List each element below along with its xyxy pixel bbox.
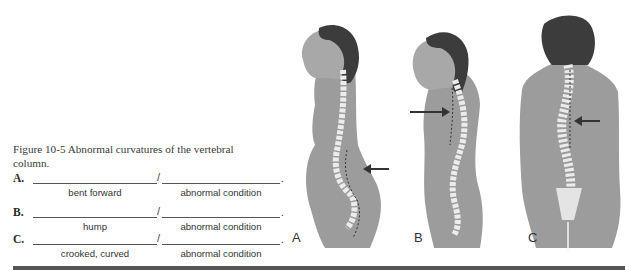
suffix-hint: abnormal condition [162, 221, 280, 232]
figure-caption: Figure 10-5 Abnormal curvatures of the v… [13, 143, 263, 170]
suffix-hint: abnormal condition [162, 248, 280, 259]
suffix-blank-input[interactable] [162, 183, 280, 184]
separator: / [157, 232, 160, 244]
root-hint: crooked, curved [33, 248, 157, 259]
item-letter: B. [13, 206, 24, 218]
item-letter: C. [13, 233, 24, 245]
separator: / [157, 205, 160, 217]
terminator: . [281, 206, 284, 218]
root-hint: bent forward [33, 187, 157, 198]
suffix-blank-input[interactable] [162, 217, 280, 218]
figure-c-illustration [500, 10, 635, 260]
panel-label-b: B [414, 230, 423, 245]
root-hint: hump [33, 221, 157, 232]
figure-a-illustration [285, 10, 395, 260]
item-letter: A. [13, 172, 24, 184]
panel-label-c: C [528, 230, 537, 245]
root-blank-input[interactable] [33, 183, 157, 184]
figure-b-illustration [400, 10, 500, 260]
separator: / [157, 171, 160, 183]
fill-in-row-a: A. / . bent forward abnormal condition [13, 172, 285, 206]
suffix-hint: abnormal condition [162, 187, 280, 198]
panel-label-a: A [292, 230, 301, 245]
root-blank-input[interactable] [33, 217, 157, 218]
terminator: . [281, 172, 284, 184]
root-blank-input[interactable] [33, 244, 157, 245]
fill-in-row-c: C. / . crooked, curved abnormal conditio… [13, 233, 285, 267]
section-divider [13, 266, 625, 270]
suffix-blank-input[interactable] [162, 244, 280, 245]
terminator: . [281, 233, 284, 245]
